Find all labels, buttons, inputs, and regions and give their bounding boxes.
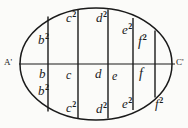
label-lower-e-squared: e2 xyxy=(122,97,132,110)
label-lower-b-squared: b2 xyxy=(38,84,49,97)
figure-canvas: A' C' b2 c2 d2 e2 f2 b c d e f b2 c2 d2 … xyxy=(0,0,188,128)
label-middle-b: b xyxy=(39,67,46,80)
label-lower-d-squared: d2 xyxy=(96,102,107,115)
label-middle-f: f xyxy=(139,65,143,81)
label-middle-d: d xyxy=(95,67,102,80)
axis-label-right: C' xyxy=(176,58,184,67)
axis-label-left: A' xyxy=(4,58,12,67)
label-upper-d-squared: d2 xyxy=(96,11,107,24)
label-upper-c-squared: c2 xyxy=(66,11,76,24)
label-upper-b-squared: b2 xyxy=(38,33,49,46)
label-lower-c-squared: c2 xyxy=(66,101,76,114)
label-upper-e-squared: e2 xyxy=(122,23,132,36)
label-middle-e: e xyxy=(112,69,118,82)
label-middle-c: c xyxy=(66,68,72,81)
label-lower-f-squared: f2 xyxy=(155,97,163,110)
label-upper-f-squared: f2 xyxy=(138,33,147,49)
